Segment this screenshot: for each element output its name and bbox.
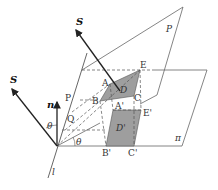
label-theta-left: θ <box>47 121 53 131</box>
label-line-l: l <box>52 167 55 177</box>
label-d-prime: D' <box>115 123 126 133</box>
vector-s-left <box>12 89 57 146</box>
label-e-prime: E' <box>143 108 152 118</box>
label-e: E <box>140 60 147 70</box>
label-s-left: S <box>10 74 17 85</box>
label-d: D <box>119 85 127 95</box>
label-b-prime: B' <box>102 148 111 158</box>
label-c-prime: C' <box>128 148 137 158</box>
label-plane-p: P <box>165 24 173 34</box>
vector-s-upper <box>76 30 120 91</box>
label-s-upper: S <box>76 16 83 27</box>
label-plane-pi: π <box>174 133 182 143</box>
label-c: C <box>134 93 141 103</box>
diagram-canvas: S S n P π l θ θ A B C D E P Q A' B' C' D… <box>0 0 218 190</box>
label-b: B <box>92 96 99 106</box>
label-n: n <box>47 99 54 110</box>
label-q: Q <box>67 114 74 124</box>
label-p: P <box>65 93 71 103</box>
label-theta-bottom: θ <box>76 137 82 147</box>
label-a-prime: A' <box>114 101 124 111</box>
label-a: A <box>101 78 109 88</box>
